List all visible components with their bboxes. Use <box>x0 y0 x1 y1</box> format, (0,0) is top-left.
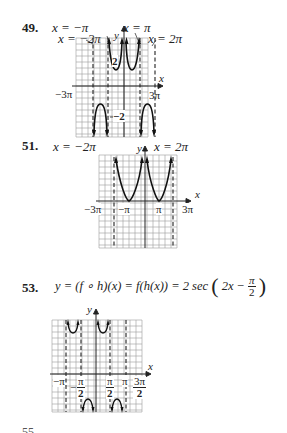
y-axis-label-53: y <box>87 303 92 315</box>
graph-53 <box>0 0 287 433</box>
tick-denominator: 2 <box>77 388 85 399</box>
tick-label-neg-pi-over-2-53: π 2 <box>77 376 85 399</box>
tick-label-3pi-over-2-53: 3π 2 <box>133 376 146 399</box>
x-axis-label-53: x <box>148 360 153 372</box>
tick-denominator: 2 <box>106 388 114 399</box>
tick-label-neg-pi-53: −π <box>53 375 65 387</box>
clipped-footer-text: 55. ... <box>22 426 49 433</box>
tick-label-pi-53: π <box>122 375 128 387</box>
arrowheads-53 <box>67 319 124 413</box>
tick-label-neg-sign-53: − <box>70 381 76 393</box>
tick-label-pi-over-2-53: π 2 <box>106 376 114 399</box>
tick-denominator: 2 <box>133 388 146 399</box>
